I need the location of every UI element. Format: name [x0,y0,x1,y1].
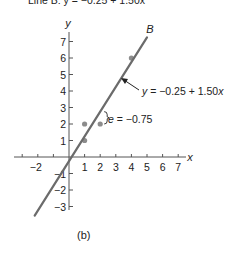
x-tick-label: 4 [128,161,134,173]
x-tick-labels: −21234567 [30,161,181,173]
y-tick-label: −2 [54,184,66,196]
figure-caption: (b) [77,229,90,241]
data-point [82,121,87,126]
y-tick-label: 1 [60,135,66,147]
x-tick-label: −2 [30,161,42,173]
y-tick-labels: −3−2−11234567 [54,36,66,213]
y-tick-label: 3 [60,102,66,114]
x-tick-label: 5 [144,161,150,173]
y-tick-label: 4 [60,85,66,97]
x-tick-label: 3 [113,161,119,173]
top-cut-text: Line B: y = −0.25 + 1.50x [28,0,146,6]
equation-arrow-icon [121,78,139,90]
equation-label: y = −0.25 + 1.50x [141,85,224,97]
y-tick-label: 5 [60,69,66,81]
x-tick-label: 1 [82,161,88,173]
y-tick-label: 2 [60,118,66,130]
line-b-label: B [146,23,153,35]
y-tick-label: −3 [54,201,66,213]
regression-line-b [35,37,147,215]
regression-figure: Line B: y = −0.25 + 1.50x −21234567 −3−2… [0,0,226,255]
y-tick-label: 6 [60,52,66,64]
residual-label: e = −0.75 [108,113,153,125]
x-tick-label: 7 [175,161,181,173]
y-axis-label: y [64,17,72,29]
x-tick-label: 6 [160,161,166,173]
x-axis-label: x [186,151,193,163]
data-point [98,121,103,126]
x-tick-label: 2 [97,161,103,173]
axes [14,32,186,210]
y-tick-label: 7 [60,36,66,48]
